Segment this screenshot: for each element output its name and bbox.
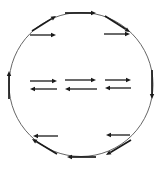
arrow-upper-left-icon: [32, 16, 56, 31]
arrowhead-icon: [91, 11, 96, 15]
circle-boundary: [9, 13, 153, 157]
arrowhead-icon: [33, 134, 38, 138]
boundary-arrow-group: [7, 11, 154, 159]
arrow-lower-left-icon: [32, 139, 57, 154]
arrow-mid-center-left-icon: [65, 87, 97, 91]
arrowhead-icon: [52, 79, 57, 83]
arrow-left-icon: [7, 71, 11, 99]
arrow-shaft: [36, 142, 57, 154]
arrowhead-icon: [51, 33, 56, 37]
arrow-mid-center-right-icon: [65, 78, 96, 82]
arrow-right-icon: [150, 70, 154, 99]
arrowhead-icon: [105, 86, 110, 90]
arrow-shaft: [105, 16, 126, 29]
arrow-mid-left-right-icon: [30, 79, 57, 83]
arrow-top-icon: [65, 11, 96, 15]
arrow-inner-upper-left-icon: [30, 33, 56, 37]
arrow-shaft: [110, 140, 131, 152]
arrowhead-icon: [106, 133, 111, 137]
arrow-shaft: [32, 19, 52, 31]
arrowhead-icon: [150, 94, 154, 99]
arrowhead-icon: [126, 78, 131, 82]
arrowhead-icon: [65, 87, 70, 91]
arrow-inner-upper-right-icon: [104, 32, 130, 36]
arrow-mid-right-right-icon: [105, 78, 131, 82]
interior-arrow-group: [30, 32, 131, 138]
arrow-mid-right-left-icon: [105, 86, 131, 90]
arrow-upper-right-icon: [105, 16, 130, 32]
arrowhead-icon: [91, 78, 96, 82]
arrow-inner-lower-right-icon: [106, 133, 130, 137]
arrow-lower-right-icon: [106, 140, 131, 155]
arrowhead-icon: [30, 87, 35, 91]
circulation-diagram: [0, 0, 163, 169]
arrowhead-icon: [125, 32, 130, 36]
arrow-inner-lower-left-icon: [33, 134, 58, 138]
arrow-mid-left-left-icon: [30, 87, 57, 91]
